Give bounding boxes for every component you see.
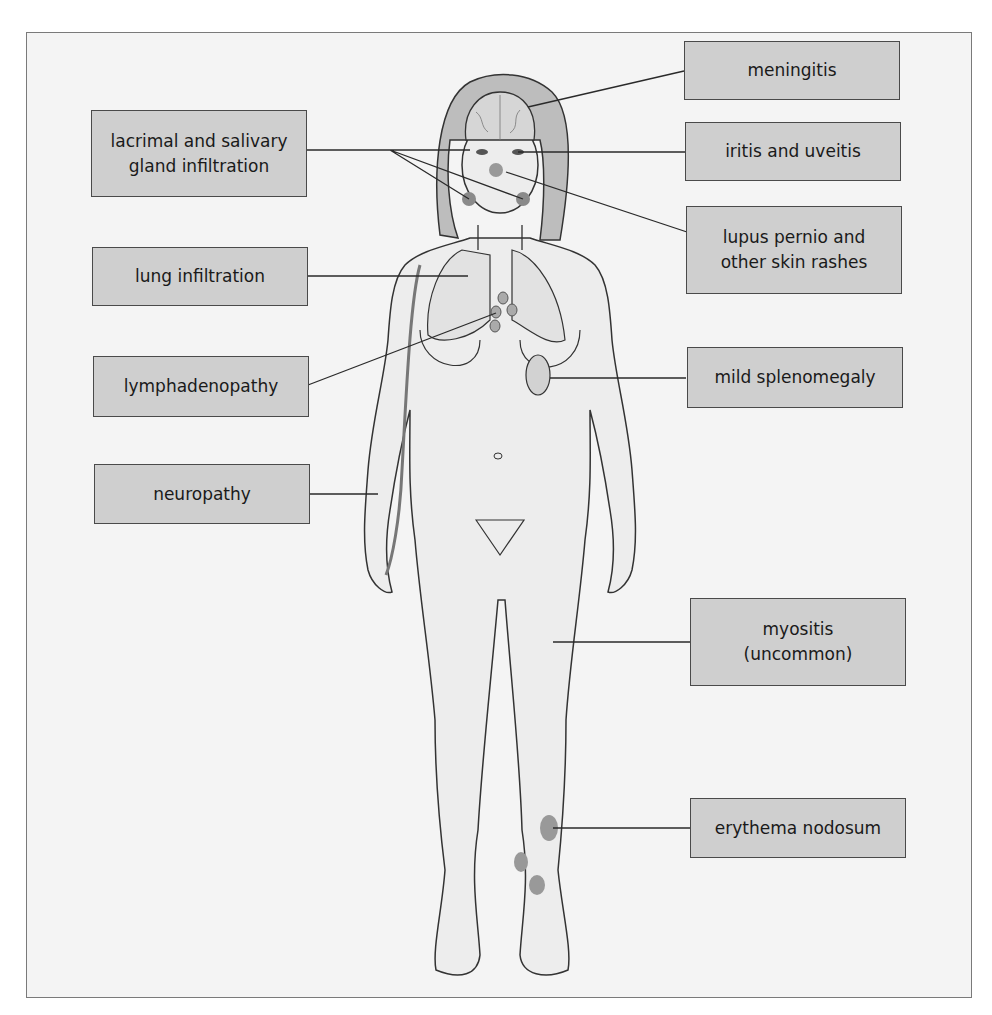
lesion-2 [514,852,528,872]
label-text: lupus pernio and other skin rashes [721,225,868,274]
label-lymphadenopathy: lymphadenopathy [93,356,309,417]
label-meningitis: meningitis [684,41,900,100]
label-text: erythema nodosum [715,816,881,841]
label-text: iritis and uveitis [725,139,861,164]
label-text: meningitis [747,58,836,83]
label-erythema-nodosum: erythema nodosum [690,798,906,858]
label-lacrimal-salivary: lacrimal and salivary gland infiltration [91,110,307,197]
label-lupus-pernio: lupus pernio and other skin rashes [686,206,902,294]
spleen-shape [526,355,550,395]
label-lung-infiltration: lung infiltration [92,247,308,306]
body-outline [365,238,636,975]
lesion-3 [529,875,545,895]
label-iritis-uveitis: iritis and uveitis [685,122,901,181]
label-text: lacrimal and salivary gland infiltration [111,129,288,178]
label-splenomegaly: mild splenomegaly [687,347,903,408]
label-text: neuropathy [153,482,251,507]
label-text: lung infiltration [135,264,265,289]
label-neuropathy: neuropathy [94,464,310,524]
label-myositis: myositis (uncommon) [690,598,906,686]
label-text: mild splenomegaly [714,365,875,390]
label-text: lymphadenopathy [124,374,278,399]
label-text: myositis (uncommon) [744,617,853,666]
nose-rash [489,163,503,177]
